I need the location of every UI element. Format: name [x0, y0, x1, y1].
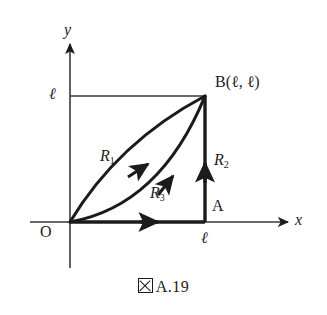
- x-tick-label-l: ℓ: [201, 230, 208, 246]
- path-R2: [70, 96, 205, 222]
- label-R2: R2: [214, 152, 229, 170]
- label-R2-sub: 2: [224, 159, 229, 170]
- origin-label: O: [40, 224, 52, 240]
- point-b-label: B(ℓ, ℓ): [215, 74, 260, 90]
- figure-caption: A.19: [0, 278, 327, 296]
- label-R2-base: R: [214, 151, 224, 168]
- y-tick-label-l: ℓ: [49, 86, 56, 102]
- path-R3: [70, 96, 205, 222]
- curve-R1: [70, 96, 205, 222]
- label-R1: R1: [100, 148, 115, 166]
- curve-R3: [70, 96, 205, 222]
- y-axis-label: y: [64, 22, 71, 38]
- point-b-coords: (ℓ, ℓ): [226, 73, 260, 90]
- path-R1: [70, 96, 205, 222]
- curve-R1-arrowhead: [128, 164, 148, 177]
- point-a-label: A: [212, 198, 224, 214]
- label-R3: R3: [150, 185, 165, 203]
- label-R1-sub: 1: [110, 155, 115, 166]
- figure-box-glyph-icon: [138, 278, 153, 293]
- label-R3-base: R: [150, 184, 160, 201]
- figure-caption-text: A.19: [156, 278, 190, 295]
- point-b-letter: B: [215, 73, 226, 90]
- figure-container: y x O ℓ ℓ A B(ℓ, ℓ) R1 R2 R3 A.19: [0, 0, 327, 315]
- figure-drawing: [0, 0, 327, 315]
- label-R1-base: R: [100, 147, 110, 164]
- x-axis-label: x: [295, 212, 302, 228]
- label-R3-sub: 3: [160, 192, 165, 203]
